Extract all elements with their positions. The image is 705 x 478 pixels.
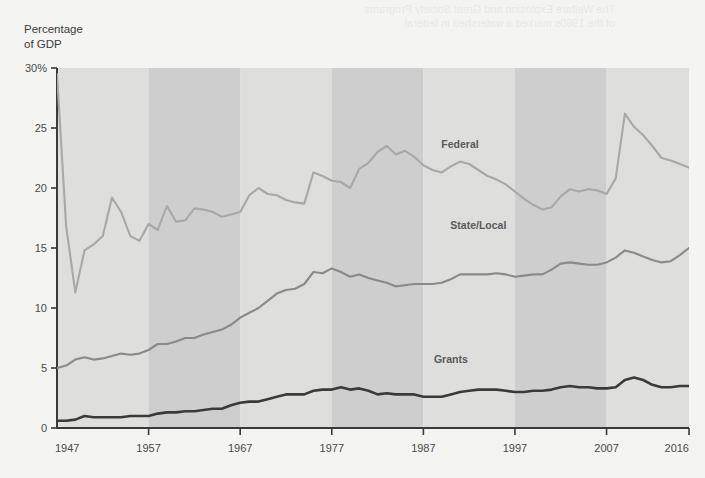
x-tick-label: 1967 [228,442,252,454]
y-tick-label: 5 [41,362,47,374]
decade-band [423,68,515,428]
y-axis-ticks: 051015202530% [25,62,57,434]
y-tick-label: 25 [35,122,47,134]
y-tick-label: 20 [35,182,47,194]
y-tick-label: 10 [35,302,47,314]
decade-band [332,68,424,428]
y-tick-label: 15 [35,242,47,254]
x-axis-ticks: 19471957196719771987199720072016 [55,428,689,454]
y-tick-label: 30% [25,62,47,74]
decade-bands [57,68,689,428]
x-tick-label: 1987 [411,442,435,454]
line-chart: 051015202530% 19471957196719771987199720… [0,0,705,478]
x-tick-label: 2007 [594,442,618,454]
decade-band [57,68,149,428]
x-tick-label: 1947 [55,442,79,454]
x-tick-label: 1957 [136,442,160,454]
series-label-federal: Federal [441,138,478,150]
chart-page: The Welfare Explosion and Great Society … [0,0,705,478]
series-label-state-local: State/Local [450,219,506,231]
x-tick-label: 1997 [503,442,527,454]
x-tick-label: 1977 [320,442,344,454]
series-label-grants: Grants [434,353,468,365]
decade-band [149,68,241,428]
decade-band [240,68,332,428]
decade-band [607,68,689,428]
decade-band [515,68,607,428]
x-tick-label: 2016 [665,442,689,454]
y-tick-label: 0 [41,422,47,434]
